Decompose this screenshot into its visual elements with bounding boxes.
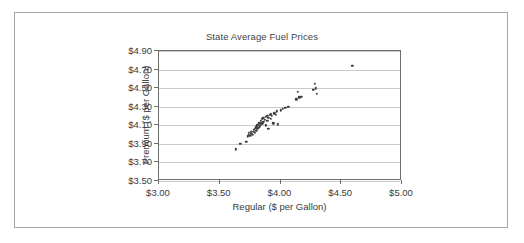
y-tick-mark: [154, 69, 158, 70]
x-tick-label: $5.00: [389, 187, 413, 198]
x-tick-mark: [340, 180, 341, 184]
plot-area: [158, 50, 401, 180]
scatter-point: [272, 122, 274, 124]
scatter-point: [313, 82, 315, 84]
y-tick-mark: [154, 50, 158, 51]
scatter-point: [279, 109, 281, 111]
scatter-point: [254, 132, 256, 134]
gridline-horizontal: [159, 51, 400, 52]
gridline-horizontal: [159, 162, 400, 163]
x-tick-label: $3.50: [207, 187, 231, 198]
x-tick-mark: [158, 180, 159, 184]
scatter-point: [312, 89, 314, 91]
x-tick-label: $4.50: [328, 187, 352, 198]
y-axis-title: Premium ($ per Gallon): [140, 66, 151, 165]
x-tick-mark: [219, 180, 220, 184]
x-tick-label: $3.00: [146, 187, 170, 198]
scatter-point: [245, 141, 247, 143]
y-tick-mark: [154, 87, 158, 88]
x-tick-label: $4.00: [268, 187, 292, 198]
y-tick-mark: [154, 124, 158, 125]
y-tick-label: $3.50: [128, 175, 152, 186]
gridline-horizontal: [159, 107, 400, 108]
scatter-point: [296, 91, 298, 93]
scatter-point: [267, 128, 269, 130]
scatter-point: [234, 148, 236, 150]
scatter-point: [266, 119, 268, 121]
gridline-horizontal: [159, 88, 400, 89]
y-tick-mark: [154, 106, 158, 107]
figure-frame: State Average Fuel Prices $3.50$3.70$3.9…: [14, 12, 508, 228]
y-tick-mark: [154, 143, 158, 144]
chart-title: State Average Fuel Prices: [15, 31, 509, 42]
scatter-point: [274, 114, 276, 116]
y-tick-label: $4.90: [128, 45, 152, 56]
scatter-point: [351, 65, 353, 67]
gridline-horizontal: [159, 70, 400, 71]
y-tick-mark: [154, 161, 158, 162]
scatter-point: [316, 93, 318, 95]
gridline-horizontal: [159, 125, 400, 126]
scatter-point: [251, 133, 253, 135]
scatter-point: [295, 98, 297, 100]
scatter-point: [270, 118, 272, 120]
plot-wrapper: $3.50$3.70$3.90$4.10$4.30$4.50$4.70$4.90…: [158, 50, 401, 180]
x-axis-title: Regular ($ per Gallon): [158, 201, 401, 212]
x-tick-mark: [280, 180, 281, 184]
gridline-horizontal: [159, 144, 400, 145]
x-tick-mark: [401, 180, 402, 184]
scatter-point: [276, 110, 278, 112]
